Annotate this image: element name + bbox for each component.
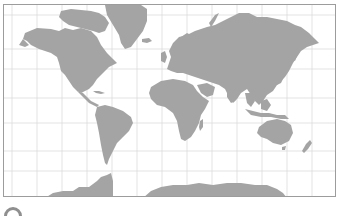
landmass-greenland	[105, 5, 147, 49]
landmass-central-america	[77, 91, 99, 107]
landmasses	[19, 5, 319, 197]
landmass-south-america	[95, 105, 133, 165]
landmass-uk	[161, 51, 167, 63]
landmass-antarctica-east	[143, 183, 287, 197]
landmass-philippines-borneo	[261, 99, 271, 111]
circle-icon[interactable]	[4, 207, 22, 216]
map-canvas	[3, 4, 336, 197]
landmass-madagascar	[199, 119, 203, 131]
world-map[interactable]	[3, 4, 336, 197]
landmass-indochina	[245, 93, 255, 107]
landmass-tasmania	[282, 146, 286, 150]
landmass-caribbean	[93, 91, 105, 94]
landmass-antarctica-west	[45, 173, 113, 197]
landmass-iceland	[142, 38, 152, 43]
